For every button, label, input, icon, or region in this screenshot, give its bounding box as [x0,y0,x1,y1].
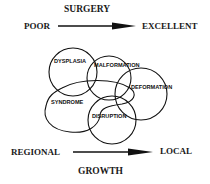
growth-arrow-icon [73,149,153,156]
deformation-label: DEFORMATION [131,84,172,90]
dysplasia-label: DYSPLASIA [54,58,86,64]
disruption-label: DISRUPTION [92,113,127,119]
surgery-arrow-icon [58,23,136,30]
diagram-root: SURGERY POOR EXCELLENT REGIONAL LOCAL GR… [0,0,210,184]
disruption-circle [88,96,136,144]
malformation-label: MALFORMATION [94,62,140,68]
syndrome-label: SYNDROME [51,99,84,105]
venn-diagram: DYSPLASIA MALFORMATION DEFORMATION DISRU… [0,0,210,184]
